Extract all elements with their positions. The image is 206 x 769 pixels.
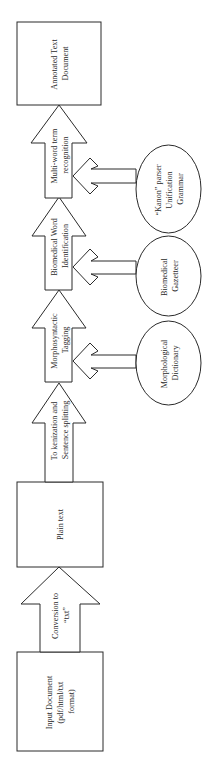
arrow-label-line: “txt” xyxy=(62,607,71,623)
arrow-label-line: Morphosyntactic xyxy=(50,313,59,369)
box-label-line: (pdf/html/txt xyxy=(56,681,65,724)
resource-label-line: Morphological xyxy=(160,339,169,388)
box-label-line: Annotated Text xyxy=(50,39,59,90)
resource-label-line: Grammar xyxy=(176,173,185,205)
arrow-label-line: Identification xyxy=(61,224,70,268)
svg-text:Plain text: Plain text xyxy=(56,508,65,540)
arrow-biomedical-word-identification: Biomedical Word Identification xyxy=(32,197,86,290)
resource-morphological-dictionary: Morphological Dictionary xyxy=(136,321,201,405)
side-arrow-dictionary xyxy=(73,343,136,379)
box-label-line: Document xyxy=(61,46,70,81)
resource-biomedical-gazetteer: Biomedical Gazetteer xyxy=(136,236,201,316)
arrow-tokenization: To kenization and Sentence splitting xyxy=(32,383,86,482)
arrow-morphosyntactic-tagging: Morphosyntactic Tagging xyxy=(32,290,86,382)
arrow-label-line: Conversion to xyxy=(51,593,60,639)
resource-label-line: Unification xyxy=(165,171,174,208)
arrow-label-line: Biomedical Word xyxy=(50,218,59,276)
resource-label-line: Gazetteer xyxy=(171,260,180,292)
pipeline-diagram: Annotated Text Document Plain text Input… xyxy=(0,0,206,769)
arrow-multi-word-term-recognition: Multi-word term recognition xyxy=(31,105,87,198)
box-annotated-text-document: Annotated Text Document xyxy=(17,22,101,105)
resource-label-line: “Kanon” parser xyxy=(154,164,163,215)
box-label-line: Input Document xyxy=(45,675,54,729)
side-arrow-gazetteer xyxy=(73,249,136,285)
arrow-label-line: To kenization and xyxy=(50,402,59,461)
box-label-line: format) xyxy=(67,689,76,714)
resource-kanon-parser: “Kanon” parser Unification Grammar xyxy=(136,145,201,233)
side-arrow-kanon xyxy=(73,158,136,194)
arrow-label-line: recognition xyxy=(61,136,70,173)
box-input-document: Input Document (pdf/html/txt format) xyxy=(17,652,103,751)
arrow-label-line: Sentence splitting xyxy=(61,401,70,459)
arrow-conversion: Conversion to “txt” xyxy=(21,567,100,652)
box-label-line: Plain text xyxy=(56,508,65,540)
arrow-label-line: Tagging xyxy=(61,327,70,354)
resource-label-line: Dictionary xyxy=(171,345,180,381)
resource-label-line: Biomedical xyxy=(160,257,169,295)
box-plain-text: Plain text xyxy=(17,482,103,567)
arrow-label-line: Multi-word term xyxy=(50,128,59,183)
